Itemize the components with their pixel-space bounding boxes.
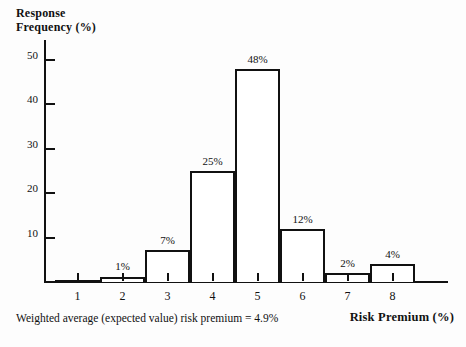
bar-4 [190,171,235,282]
y-tick-mark [46,192,55,194]
bar-value-label-5: 48% [247,54,267,65]
x-tick-label: 2 [120,290,126,302]
y-tick-mark [46,103,55,105]
y-tick-label: 10 [27,227,38,238]
x-tick-label: 6 [300,290,306,302]
x-tick-mark [122,273,124,281]
x-tick-mark [302,273,304,281]
figure-histogram: Response Frequency (%) 10 20 30 40 50 [0,0,466,347]
y-tick-label: 40 [27,94,38,105]
x-tick-label: 1 [75,290,81,302]
x-axis-title: Risk Premium (%) [350,310,454,324]
x-tick-mark [167,273,169,281]
plot-area: 10 20 30 40 50 1% 7% 25% 48% 12 [44,40,448,283]
x-tick-label: 7 [345,290,351,302]
y-tick-mark [46,237,55,239]
weighted-average-note: Weighted average (expected value) risk p… [16,312,278,325]
x-tick-mark [77,273,79,281]
y-tick-label: 50 [27,50,38,61]
x-tick-label: 4 [210,290,216,302]
bar-value-label-4: 25% [202,156,222,167]
y-axis-title: Response Frequency (%) [16,6,96,34]
y-tick-label: 20 [27,183,38,194]
bar-value-label-3: 7% [160,235,175,246]
bar-value-label-8: 4% [385,249,400,260]
x-tick-mark [347,273,349,281]
y-axis-line [44,40,46,283]
x-tick-label: 8 [390,290,396,302]
x-tick-label: 3 [165,290,171,302]
bar-value-label-2: 1% [115,261,130,272]
bar-value-label-6: 12% [292,214,312,225]
bar-5 [235,69,280,282]
x-tick-label: 5 [255,290,261,302]
y-tick-mark [46,59,55,61]
x-tick-mark [392,273,394,281]
y-tick-label: 30 [27,138,38,149]
x-tick-mark [257,273,259,281]
bar-value-label-7: 2% [340,258,355,269]
x-tick-mark [212,273,214,281]
y-tick-mark [46,148,55,150]
